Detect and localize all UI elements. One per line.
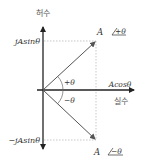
arc-negative-label: −θ: [64, 96, 75, 105]
positive-phasor-magnitude: A: [96, 27, 103, 37]
real-projection-label: Acosθ: [108, 80, 132, 89]
negative-phasor-label: A −θ: [93, 147, 123, 158]
imaginary-axis-label: 허수: [36, 9, 50, 18]
negative-phasor-magnitude: A: [93, 147, 100, 157]
arc-negative-angle: [58, 90, 63, 104]
arc-positive-label: +θ: [64, 78, 75, 87]
real-axis-label: 실수: [114, 96, 128, 106]
positive-phasor-label: A +θ: [96, 27, 126, 38]
phasor-diagram: 허수 실수 jAsinθ −jAsinθ Acosθ +θ −θ A +θ A …: [0, 0, 149, 160]
pos-imag-projection-label: jAsinθ: [13, 37, 40, 46]
arc-positive-angle: [58, 76, 63, 90]
positive-phasor-angle: +θ: [115, 27, 126, 36]
neg-imag-projection-label: −jAsinθ: [8, 136, 40, 145]
negative-phasor-angle: −θ: [111, 147, 122, 156]
